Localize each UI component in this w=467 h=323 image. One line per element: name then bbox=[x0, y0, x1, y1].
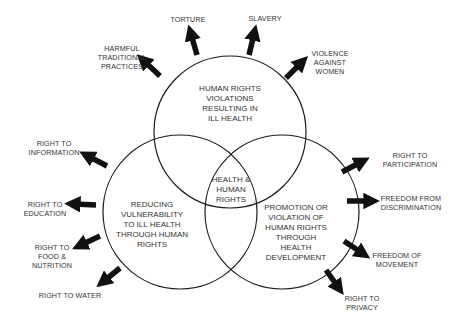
label-line: TORTURE bbox=[158, 15, 218, 24]
arrow-information bbox=[88, 156, 107, 166]
label-line: RIGHT TO bbox=[22, 139, 86, 148]
label-discrimination: FREEDOM FROM DISCRIMINATION bbox=[378, 194, 444, 212]
label-line: RIGHT TO bbox=[339, 294, 385, 303]
label-line: TRADITIONAL bbox=[82, 53, 162, 62]
label-line: FREEDOM FROM bbox=[378, 194, 444, 203]
label-line: PRACTICES bbox=[82, 62, 162, 71]
label-movement: FREEDOM OF MOVEMENT bbox=[369, 251, 425, 269]
label-food-nutrition: RIGHT TO FOOD & NUTRITION bbox=[27, 243, 77, 270]
circle-right-label: PROMOTION OR VIOLATION OF HUMAN RIGHTS T… bbox=[246, 203, 346, 263]
label-education: RIGHT TO EDUCATION bbox=[20, 200, 70, 218]
label-line: TO ILL HEALTH bbox=[102, 220, 202, 230]
label-line: PARTICIPATION bbox=[380, 160, 440, 169]
label-line: WOMEN bbox=[300, 67, 360, 76]
circle-left-label: REDUCING VULNERABILITY TO ILL HEALTH THR… bbox=[102, 200, 202, 250]
label-line: HEALTH & bbox=[196, 175, 266, 185]
label-line: SLAVERY bbox=[240, 14, 290, 23]
label-violence-women: VIOLENCE AGAINST WOMEN bbox=[300, 49, 360, 76]
label-line: VIOLATIONS bbox=[180, 94, 280, 104]
label-harmful-practices: HARMFUL TRADITIONAL PRACTICES bbox=[82, 44, 162, 71]
arrow-slavery bbox=[249, 34, 254, 55]
circle-top-label: HUMAN RIGHTS VIOLATIONS RESULTING IN ILL… bbox=[180, 84, 280, 124]
label-water: RIGHT TO WATER bbox=[30, 291, 110, 300]
label-line: MOVEMENT bbox=[369, 260, 425, 269]
label-line: HUMAN RIGHTS bbox=[246, 223, 346, 233]
label-slavery: SLAVERY bbox=[240, 14, 290, 23]
label-line: VULNERABILITY bbox=[102, 210, 202, 220]
arrow-torture bbox=[191, 34, 197, 55]
label-line: EDUCATION bbox=[20, 209, 70, 218]
label-line: INFORMATION bbox=[22, 148, 86, 157]
label-privacy: RIGHT TO PRIVACY bbox=[339, 294, 385, 312]
label-line: VIOLATION OF bbox=[246, 213, 346, 223]
label-line: THROUGH HUMAN bbox=[102, 230, 202, 240]
label-information: RIGHT TO INFORMATION bbox=[22, 139, 86, 157]
arrow-violence-women bbox=[286, 63, 301, 78]
arrow-food bbox=[81, 236, 100, 245]
label-line: VIOLENCE bbox=[300, 49, 360, 58]
label-line: HARMFUL bbox=[82, 44, 162, 53]
label-line: HUMAN bbox=[196, 185, 266, 195]
label-line: HUMAN RIGHTS bbox=[180, 84, 280, 94]
label-line: RIGHT TO bbox=[20, 200, 70, 209]
label-line: RIGHTS bbox=[102, 240, 202, 250]
arrow-education bbox=[74, 204, 96, 205]
label-line: RESULTING IN bbox=[180, 104, 280, 114]
label-line: RIGHT TO bbox=[27, 243, 77, 252]
label-line: DISCRIMINATION bbox=[378, 203, 444, 212]
arrow-water bbox=[104, 268, 120, 281]
label-participation: RIGHT TO PARTICIPATION bbox=[380, 151, 440, 169]
label-line: NUTRITION bbox=[27, 261, 77, 270]
label-line: REDUCING bbox=[102, 200, 202, 210]
label-line: RIGHTS bbox=[196, 195, 266, 205]
center-label: HEALTH & HUMAN RIGHTS bbox=[196, 175, 266, 205]
label-torture: TORTURE bbox=[158, 15, 218, 24]
label-line: PRIVACY bbox=[339, 303, 385, 312]
label-line: ILL HEALTH bbox=[180, 114, 280, 124]
label-line: DEVELOPMENT bbox=[246, 253, 346, 263]
label-line: FREEDOM OF bbox=[369, 251, 425, 260]
label-line: AGAINST bbox=[300, 58, 360, 67]
label-line: FOOD & bbox=[27, 252, 77, 261]
label-line: HEALTH bbox=[246, 243, 346, 253]
label-line: THROUGH bbox=[246, 233, 346, 243]
label-line: RIGHT TO WATER bbox=[30, 291, 110, 300]
label-line: RIGHT TO bbox=[380, 151, 440, 160]
arrow-privacy bbox=[326, 270, 338, 287]
